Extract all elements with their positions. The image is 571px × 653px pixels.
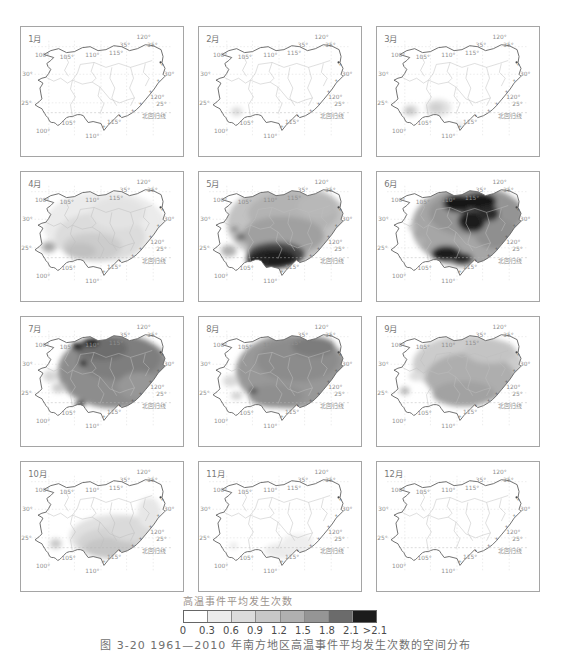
graticule-label: 110° <box>85 568 99 574</box>
graticule-label: 100° <box>35 342 49 348</box>
graticule-label: 110° <box>85 423 99 429</box>
legend-color-segment <box>256 611 280 622</box>
graticule-label: 120° <box>136 179 150 185</box>
graticule-label: 35° <box>476 42 486 48</box>
svg-text:+: + <box>474 258 478 263</box>
graticule-label: 110° <box>263 52 277 58</box>
city-dot <box>338 206 340 208</box>
legend-tick-label: 0.3 <box>199 625 215 636</box>
graticule-label: 100° <box>36 563 50 569</box>
city-dot <box>516 61 518 63</box>
graticule-label: 25° <box>199 245 209 251</box>
intensity-blob <box>52 383 66 393</box>
graticule-label: 115° <box>465 340 479 346</box>
graticule-label: 100° <box>214 563 228 569</box>
svg-text:+: + <box>102 414 106 419</box>
panel-month-label: 1月 <box>28 34 41 44</box>
graticule-label: 100° <box>35 52 49 58</box>
month-map: +++++++ 100°105°110°115°120°35°35°30°30°… <box>21 27 183 156</box>
graticule-label: 105° <box>240 265 254 271</box>
graticule-label: 30° <box>22 361 32 367</box>
graticule-label: 115° <box>107 554 121 560</box>
graticule-label: 110° <box>263 197 277 203</box>
legend-color-segment <box>281 611 305 622</box>
graticule-label: 30° <box>378 506 388 512</box>
graticule-label: 30° <box>342 506 352 512</box>
panel-month-label: 7月 <box>28 324 41 334</box>
graticule-label: 120° <box>492 179 506 185</box>
city-dot <box>516 351 518 353</box>
graticule-label: 115° <box>287 50 301 56</box>
svg-text:+: + <box>458 559 462 564</box>
graticule-label: 110° <box>263 568 277 574</box>
graticule-label: 25° <box>334 391 344 397</box>
graticule-label: 100° <box>36 273 50 279</box>
graticule-label: 35° <box>120 477 130 483</box>
legend-colorbar <box>183 610 377 623</box>
graticule-label: 100° <box>213 342 227 348</box>
panel-month-label: 11月 <box>206 469 225 479</box>
graticule-label: 35° <box>503 332 513 338</box>
graticule-label: 30° <box>342 361 352 367</box>
graticule-label: 120° <box>492 469 506 475</box>
graticule-label: 100° <box>392 128 406 134</box>
graticule-label: 北回归线 <box>142 112 166 120</box>
province-borders <box>402 490 508 552</box>
svg-text:+: + <box>309 543 313 548</box>
intensity-blob <box>409 371 425 381</box>
graticule-label: 110° <box>441 278 455 284</box>
graticule-label: 100° <box>214 273 228 279</box>
svg-text:+: + <box>139 101 143 106</box>
graticule-label: 25° <box>377 535 387 541</box>
city-dot <box>160 496 162 498</box>
graticule-label: 105° <box>418 120 432 126</box>
svg-text:+: + <box>156 223 160 228</box>
graticule-label: 35° <box>476 477 486 483</box>
graticule-label: 35° <box>147 42 157 48</box>
svg-text:+: + <box>280 559 284 564</box>
graticule-label: 105° <box>416 344 430 350</box>
svg-text:+: + <box>317 536 321 541</box>
month-map: +++++++ 100°105°110°115°120°35°35°30°30°… <box>21 462 183 591</box>
svg-text:+: + <box>102 269 106 274</box>
svg-text:+: + <box>512 78 516 83</box>
intensity-blob <box>221 245 237 257</box>
svg-text:+: + <box>131 543 135 548</box>
graticule-label: 北回归线 <box>142 402 166 410</box>
legend-color-segment <box>184 611 208 622</box>
svg-text:+: + <box>156 78 160 83</box>
graticule-label: 35° <box>120 187 130 193</box>
legend-ticks: 00.30.60.91.21.51.82.1>2.1 <box>183 625 383 638</box>
graticule-label: 105° <box>60 54 74 60</box>
panel-month-label: 12月 <box>384 469 403 479</box>
svg-text:+: + <box>334 368 338 373</box>
graticule-label: 35° <box>298 332 308 338</box>
graticule-label: 25° <box>199 535 209 541</box>
graticule-label: 105° <box>62 410 76 416</box>
graticule-label: 105° <box>418 265 432 271</box>
graticule-label: 120° <box>314 34 328 40</box>
graticule-label: 25° <box>199 390 209 396</box>
legend-tick-label: 1.2 <box>271 625 287 636</box>
month-panel-5: +++++++ 100°105°110°115°120°35°35°30°30°… <box>198 171 362 302</box>
graticule-label: 110° <box>263 133 277 139</box>
month-map: +++++++ 100°105°110°115°120°35°35°30°30°… <box>21 172 183 301</box>
graticule-label: 100° <box>214 128 228 134</box>
province-borders <box>224 490 330 552</box>
legend-tick-label: 0 <box>180 625 186 636</box>
graticule-label: 120° <box>492 324 506 330</box>
svg-text:+: + <box>156 513 160 518</box>
graticule-label: 105° <box>238 199 252 205</box>
graticule-label: 120° <box>506 239 520 245</box>
graticule-label: 25° <box>21 535 31 541</box>
graticule-label: 25° <box>156 101 166 107</box>
graticule-label: 北回归线 <box>498 257 522 265</box>
svg-text:+: + <box>487 253 491 258</box>
graticule-label: 115° <box>107 409 121 415</box>
legend-color-segment <box>232 611 256 622</box>
month-panel-10: +++++++ 100°105°110°115°120°35°35°30°30°… <box>20 461 184 592</box>
graticule-label: 120° <box>150 384 164 390</box>
graticule-label: 100° <box>36 418 50 424</box>
graticule-label: 35° <box>503 187 513 193</box>
graticule-label: 25° <box>377 100 387 106</box>
